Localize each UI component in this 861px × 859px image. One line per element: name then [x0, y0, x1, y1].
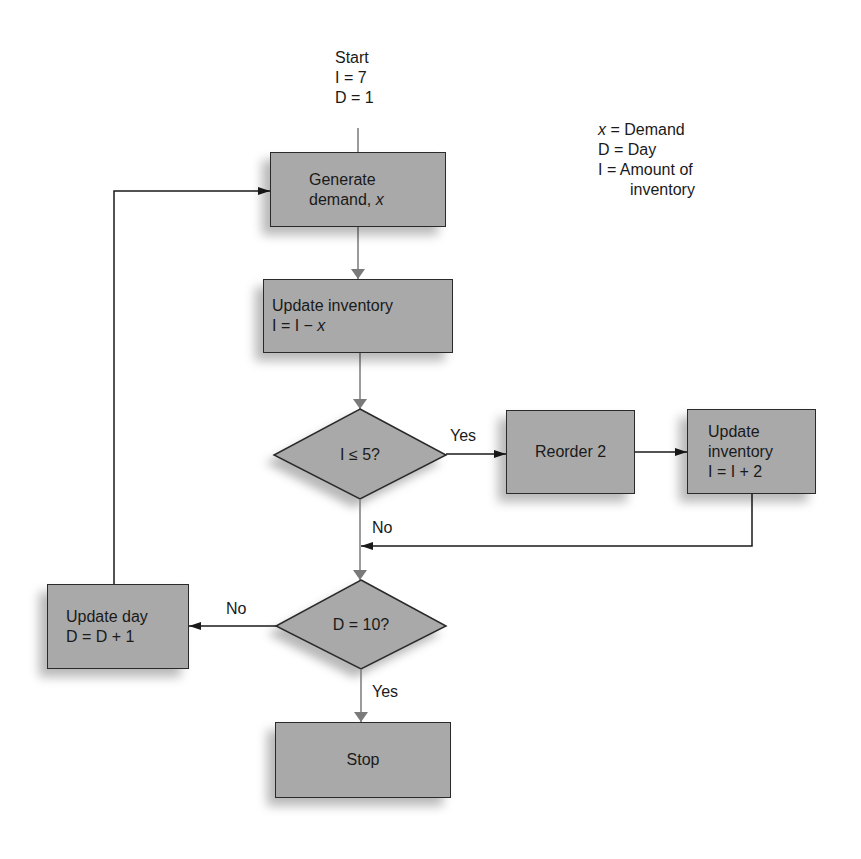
- edge-label-day-yes: Yes: [372, 682, 398, 702]
- start-label: Start I = 7 D = 1: [335, 48, 374, 108]
- decision-day-text: D = 10?: [311, 615, 411, 635]
- update-day-box: Update day D = D + 1: [47, 584, 189, 669]
- update-inventory-2-box: Update inventory I = I + 2: [687, 409, 816, 494]
- legend-item-inventory-cont: inventory: [598, 180, 695, 200]
- update-inventory-line2: I = I − x: [272, 316, 325, 336]
- edge-label-inventory-yes: Yes: [450, 426, 476, 446]
- update-inventory-2-line1: Update: [708, 422, 760, 442]
- generate-demand-box: Generate demand, x: [270, 152, 446, 227]
- reorder-text: Reorder 2: [535, 442, 606, 462]
- decision-inventory-text: I ≤ 5?: [310, 445, 410, 465]
- update-day-line1: Update day: [66, 607, 148, 627]
- start-init-inventory: I = 7: [335, 68, 374, 88]
- start-title: Start: [335, 48, 374, 68]
- edge-label-day-no: No: [226, 599, 246, 619]
- generate-line1: Generate: [309, 170, 376, 190]
- edge-label-inventory-no: No: [372, 518, 392, 538]
- generate-line2: demand, x: [309, 190, 384, 210]
- update-inventory-2-line2: inventory: [708, 442, 773, 462]
- update-inventory-2-line3: I = I + 2: [708, 462, 762, 482]
- reorder-box: Reorder 2: [506, 410, 635, 494]
- update-inventory-line1: Update inventory: [272, 296, 393, 316]
- loop-back-arrow: [114, 191, 270, 584]
- update-day-line2: D = D + 1: [66, 627, 134, 647]
- legend-item-inventory: I = Amount of: [598, 160, 695, 180]
- stop-box: Stop: [275, 722, 451, 798]
- update2-return-arrow: [361, 494, 752, 546]
- legend-item-demand: x = Demand: [598, 120, 695, 140]
- legend-item-day: D = Day: [598, 140, 695, 160]
- stop-text: Stop: [347, 750, 380, 770]
- legend: x = Demand D = Day I = Amount of invento…: [598, 120, 695, 200]
- update-inventory-box: Update inventory I = I − x: [263, 279, 453, 353]
- start-init-day: D = 1: [335, 88, 374, 108]
